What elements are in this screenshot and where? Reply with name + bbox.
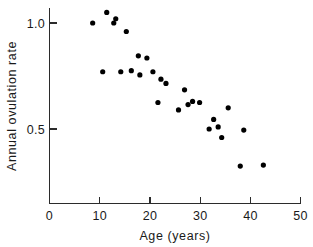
data-point xyxy=(158,77,163,82)
x-tick-label-0: 0 xyxy=(46,209,53,223)
data-point xyxy=(219,135,224,140)
data-point xyxy=(261,162,266,167)
data-point xyxy=(185,102,190,107)
data-point xyxy=(113,16,118,21)
y-axis-title: Annual ovulation rate xyxy=(5,41,19,171)
x-axis-title: Age (years) xyxy=(139,229,210,243)
data-point xyxy=(197,100,202,105)
data-point xyxy=(90,20,95,25)
data-point xyxy=(137,72,142,77)
data-point xyxy=(176,107,181,112)
data-point xyxy=(182,87,187,92)
data-point xyxy=(100,69,105,74)
x-tick-label-40: 40 xyxy=(243,209,258,223)
data-point xyxy=(207,126,212,131)
data-point xyxy=(136,53,141,58)
data-point xyxy=(150,69,155,74)
plot-canvas: 0 10 20 30 40 50 0.5 1.0 Age (years) Ann… xyxy=(0,0,313,247)
data-point xyxy=(190,99,195,104)
x-tick-label-50: 50 xyxy=(293,209,308,223)
scatter-plot-figure: 0 10 20 30 40 50 0.5 1.0 Age (years) Ann… xyxy=(0,0,313,247)
y-tick-label-1-0: 1.0 xyxy=(27,17,45,31)
y-tick-labels: 0.5 1.0 xyxy=(27,17,45,137)
data-point xyxy=(155,100,160,105)
x-tick-labels: 0 10 20 30 40 50 xyxy=(46,209,308,223)
data-point xyxy=(226,105,231,110)
x-tick-label-20: 20 xyxy=(143,209,158,223)
y-axis-ticks xyxy=(50,23,57,129)
data-point xyxy=(104,10,109,15)
y-tick-label-0-5: 0.5 xyxy=(27,123,45,137)
data-point xyxy=(211,117,216,122)
x-tick-label-10: 10 xyxy=(92,209,107,223)
data-point xyxy=(118,69,123,74)
data-point xyxy=(238,164,243,169)
x-axis-ticks xyxy=(50,197,301,204)
axis-lines xyxy=(50,8,301,204)
data-point xyxy=(129,68,134,73)
data-point xyxy=(163,81,168,86)
data-point xyxy=(241,127,246,132)
data-point xyxy=(124,29,129,34)
data-point xyxy=(144,55,149,60)
x-tick-label-30: 30 xyxy=(193,209,208,223)
data-points-layer xyxy=(90,10,266,169)
data-point xyxy=(216,124,221,129)
